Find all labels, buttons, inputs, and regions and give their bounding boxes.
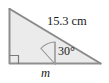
base-length-label: m: [41, 67, 50, 80]
geometry-figure: 15.3 cm 30° m: [0, 0, 109, 83]
hypotenuse-length-label: 15.3 cm: [47, 15, 87, 28]
angle-measure-label: 30°: [58, 45, 75, 57]
triangle-diagram: [0, 0, 109, 83]
